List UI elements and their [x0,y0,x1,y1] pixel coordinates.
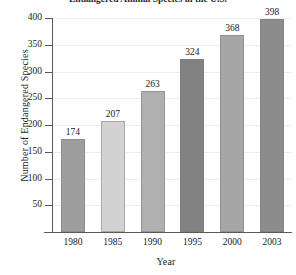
bar-value-label: 324 [170,47,214,57]
bar [101,121,125,232]
bar [141,91,165,232]
y-tick-label: 150 [0,147,42,157]
x-tick-label: 1985 [91,237,135,247]
y-tick-label: 300 [0,67,42,77]
y-tick-label: 400 [0,13,42,23]
y-tick-mark [45,45,53,46]
y-tick-mark [45,72,53,73]
x-axis-label: Year [40,256,292,267]
y-tick-mark [45,98,53,99]
bar-chart-figure: Endangered Animal Species in the U.S. Nu… [0,0,296,275]
x-tick-label: 1995 [170,237,214,247]
bar-value-label: 207 [91,109,135,119]
y-tick-label: 350 [0,40,42,50]
chart-title: Endangered Animal Species in the U.S. [0,0,296,5]
bar [220,35,244,232]
y-tick-mark [45,18,53,19]
x-tick-label: 2000 [210,237,254,247]
x-axis-line [44,232,292,233]
bar-value-label: 263 [131,79,175,89]
y-tick-label: 100 [0,174,42,184]
y-tick-label: 250 [0,93,42,103]
bar [260,19,284,232]
x-tick-label: 2003 [250,237,294,247]
y-tick-label: 200 [0,120,42,130]
x-tick-label: 1990 [131,237,175,247]
bar [61,139,85,232]
y-tick-label: 50 [0,200,42,210]
y-tick-mark [45,205,53,206]
x-tick-label: 1980 [51,237,95,247]
bar-value-label: 174 [51,127,95,137]
y-tick-mark [45,152,53,153]
y-tick-mark [45,125,53,126]
y-tick-mark [45,179,53,180]
bar [180,59,204,232]
bar-value-label: 368 [210,23,254,33]
bar-value-label: 398 [250,7,294,17]
